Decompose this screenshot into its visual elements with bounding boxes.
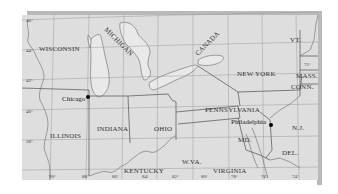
- label-delaware: DEL.: [282, 149, 298, 157]
- label-wisconsin: WISCONSIN: [39, 45, 80, 53]
- label-new-jersey: N.J.: [292, 124, 304, 132]
- label-philadelphia: Philadelphia: [231, 118, 267, 126]
- lon-label-76: 76°: [261, 174, 268, 179]
- lon-label-88: 88°: [82, 174, 89, 179]
- lon-label-80: 80°: [201, 174, 208, 179]
- map-svg: WISCONSIN MICHIGAN CANADA NEW YORK VT. M…: [0, 0, 338, 194]
- label-virginia: VIRGINIA: [213, 167, 246, 175]
- lon-label-90: 90°: [49, 174, 56, 179]
- map-figure: WISCONSIN MICHIGAN CANADA NEW YORK VT. M…: [0, 0, 338, 194]
- label-illinois: ILLINOIS: [50, 132, 81, 140]
- label-maryland: MD.: [238, 136, 252, 144]
- label-pennsylvania: PENNSYLVANIA: [205, 106, 260, 114]
- lon-label-72: 72°: [304, 62, 311, 67]
- lat-label-38: 38°: [26, 139, 33, 144]
- label-indiana: INDIANA: [97, 125, 128, 133]
- lon-label-82: 82°: [172, 174, 179, 179]
- lon-label-78: 78°: [231, 174, 238, 179]
- lat-label-44: 44°: [26, 48, 33, 53]
- label-massachusetts: MASS.: [296, 72, 318, 80]
- lon-label-74: 74°: [292, 174, 299, 179]
- lat-label-46: 46°: [26, 18, 33, 23]
- lon-label-86: 86°: [112, 174, 119, 179]
- label-vermont: VT.: [290, 36, 301, 44]
- lat-label-40: 40°: [26, 109, 33, 114]
- city-dot-philadelphia: [269, 123, 273, 127]
- label-west-virginia: W.VA.: [182, 158, 202, 166]
- city-dot-chicago: [86, 95, 90, 99]
- lat-label-42: 42°: [26, 78, 33, 83]
- lon-label-84: 84°: [142, 174, 149, 179]
- label-connecticut: CONN.: [291, 83, 314, 91]
- label-ohio: OHIO: [154, 125, 172, 133]
- label-chicago: Chicago: [62, 95, 86, 103]
- label-new-york: NEW YORK: [237, 70, 276, 78]
